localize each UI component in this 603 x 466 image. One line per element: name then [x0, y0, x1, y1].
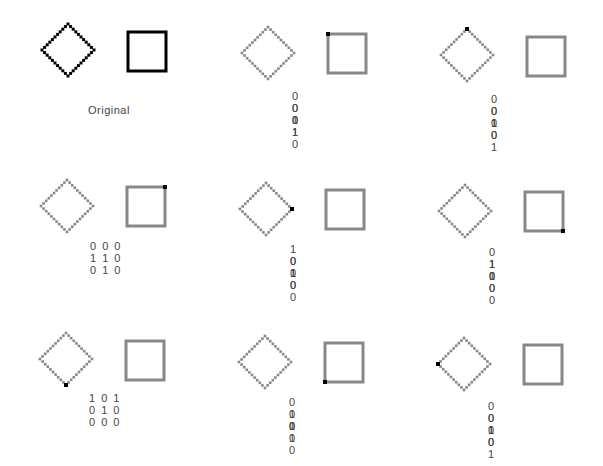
panel-p9: 0 0 10 1 00 0 1: [0, 0, 200, 150]
kernel-matrix: 0 0 10 1 00 0 1: [488, 400, 496, 436]
square-shape: [524, 345, 562, 384]
matrix-row: 0 1 0: [488, 412, 496, 424]
diamond-shape: [0, 0, 603, 466]
marker-point: [436, 362, 440, 366]
matrix-row: 0 0 1: [488, 400, 496, 412]
matrix-row: 0 0 1: [488, 424, 496, 436]
